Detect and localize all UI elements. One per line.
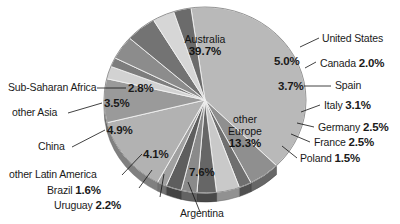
- slice-value-sub-saharan-africa: 2.8%: [128, 82, 154, 95]
- slice-value-china: 4.9%: [107, 124, 133, 137]
- pie-chart: Australia 39.7% other Europe 13.3% 5.0% …: [0, 0, 400, 224]
- callout-name-france: France: [314, 136, 346, 148]
- callout-sub-saharan-africa: Sub-Saharan Africa: [8, 82, 96, 94]
- callout-uruguay: Uruguay 2.2%: [54, 199, 121, 212]
- callout-name-uruguay: Uruguay: [54, 199, 93, 211]
- callout-spain: Spain: [335, 80, 361, 92]
- callout-name-italy: Italy: [324, 99, 343, 111]
- callout-name-spain: Spain: [335, 79, 361, 91]
- callout-name-sub-saharan-africa: Sub-Saharan Africa: [8, 81, 96, 93]
- callout-name-united-states: United States: [322, 32, 383, 44]
- callout-poland: Poland 1.5%: [300, 152, 360, 165]
- leader-line-other-asia: [68, 103, 102, 113]
- callout-france: France 2.5%: [314, 136, 374, 149]
- callout-brazil: Brazil 1.6%: [47, 184, 101, 197]
- callout-name-other-latin-america: other Latin America: [9, 168, 97, 180]
- callout-value-poland: 1.5%: [335, 152, 361, 164]
- slice-name-other-europe-line1: other: [233, 113, 257, 125]
- callout-name-other-asia: other Asia: [12, 106, 57, 118]
- callout-germany: Germany 2.5%: [318, 121, 389, 134]
- leader-line-china: [72, 130, 105, 147]
- slice-value-other-europe: 13.3%: [229, 137, 262, 149]
- leader-line-canada: [305, 62, 316, 68]
- callout-other-asia: other Asia: [12, 107, 57, 119]
- slice-value-spain: 3.7%: [278, 80, 304, 93]
- callout-canada: Canada 2.0%: [320, 57, 384, 70]
- callout-name-china: China: [38, 140, 65, 152]
- callout-name-brazil: Brazil: [47, 184, 72, 196]
- pie-depth-italy: [197, 192, 217, 202]
- slice-label-other-europe: other Europe 13.3%: [205, 113, 285, 150]
- slice-value-other-latin-america: 4.1%: [143, 148, 169, 161]
- callout-italy: Italy 3.1%: [324, 99, 371, 112]
- callout-value-uruguay: 2.2%: [95, 199, 121, 211]
- slice-name-australia: Australia: [185, 33, 226, 45]
- callout-other-latin-america: other Latin America: [9, 169, 97, 181]
- callout-value-italy: 3.1%: [345, 99, 371, 111]
- leader-line-united-states: [300, 38, 319, 47]
- callout-name-argentina: Argentina: [180, 207, 224, 219]
- callout-name-poland: Poland: [300, 152, 332, 164]
- slice-name-other-europe-line2: Europe: [228, 125, 262, 137]
- callout-value-brazil: 1.6%: [75, 184, 101, 196]
- callout-name-canada: Canada: [320, 57, 356, 69]
- callout-value-germany: 2.5%: [363, 121, 389, 133]
- callout-united-states: United States: [322, 33, 383, 45]
- callout-china: China: [38, 141, 65, 153]
- callout-name-germany: Germany: [318, 121, 360, 133]
- callout-value-france: 2.5%: [349, 136, 375, 148]
- slice-value-other-asia: 3.5%: [104, 97, 130, 110]
- slice-value-australia: 39.7%: [189, 45, 222, 57]
- callout-argentina: Argentina: [180, 208, 224, 220]
- slice-label-australia: Australia 39.7%: [160, 33, 250, 58]
- slice-value-argentina: 7.6%: [189, 166, 215, 179]
- callout-value-canada: 2.0%: [359, 57, 385, 69]
- slice-value-united-states: 5.0%: [274, 55, 300, 68]
